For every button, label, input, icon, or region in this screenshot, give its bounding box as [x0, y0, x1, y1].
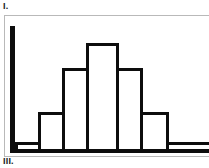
histogram-bar: [86, 43, 119, 153]
y-axis-spike: [10, 26, 15, 153]
figure-label-bottom: III.: [3, 156, 14, 166]
histogram-bar: [116, 68, 143, 153]
histogram-bar: [62, 68, 89, 153]
plot-frame: [4, 15, 209, 157]
figure-label-top: I.: [3, 1, 8, 11]
x-axis-baseline: [10, 149, 209, 153]
histogram-bar: [38, 112, 65, 153]
histogram-bar: [140, 112, 169, 153]
histogram-plot-area: [5, 16, 209, 157]
